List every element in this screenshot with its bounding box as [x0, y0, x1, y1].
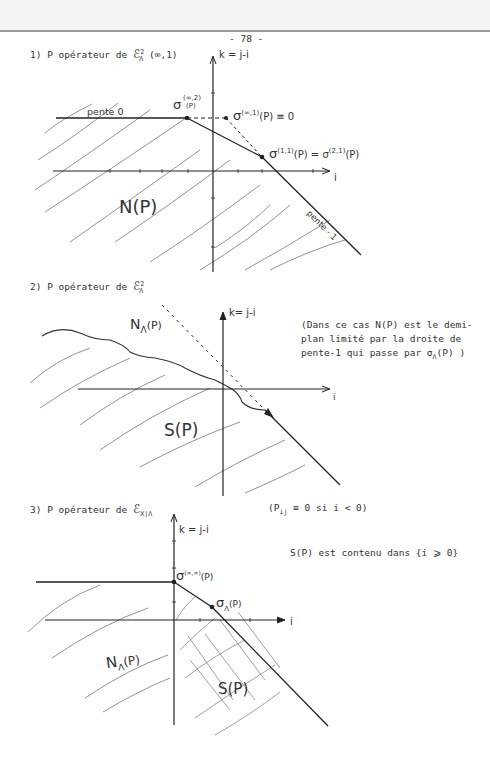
crosshatch-s-region [176, 597, 280, 735]
k-axis-label: k = j-i [179, 524, 209, 535]
hatching-n-lambda-region [28, 585, 170, 712]
diagram-3 [0, 0, 490, 784]
vertex-sigma [210, 605, 215, 610]
i-axis-label: i [290, 616, 293, 627]
middle-edge [174, 582, 212, 607]
i-axis-arrow-icon [277, 617, 285, 623]
sigma-label: σΛ(P) [216, 595, 242, 613]
sigma-infinf-label: σ(∞,∞)(P) [176, 568, 213, 583]
region-s-label: S(P) [218, 680, 248, 698]
